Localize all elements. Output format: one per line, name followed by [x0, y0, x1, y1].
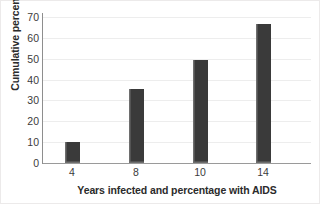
y-tick-label: 30: [13, 94, 39, 106]
x-tick-label: 10: [180, 166, 220, 178]
gridline: [43, 59, 311, 60]
gridline: [43, 38, 311, 39]
x-tick-label: 8: [116, 166, 156, 178]
gridline: [43, 17, 311, 18]
y-tick-label: 10: [13, 136, 39, 148]
y-tick-label: 40: [13, 74, 39, 86]
gridline: [43, 121, 311, 122]
bar-chart-figure: Cumulative percentage 010203040506070 48…: [0, 0, 320, 204]
y-tick-label: 70: [13, 11, 39, 23]
y-tick-label: 20: [13, 115, 39, 127]
x-axis-title: Years infected and percentage with AIDS: [43, 184, 311, 196]
y-tick-label: 0: [13, 157, 39, 169]
x-tick-label: 14: [243, 166, 283, 178]
x-tick-label: 4: [52, 166, 92, 178]
plot-area: [43, 17, 311, 163]
gridline: [43, 100, 311, 101]
bar: [193, 60, 208, 163]
bar: [256, 24, 271, 163]
y-axis-tick-labels: 010203040506070: [8, 17, 39, 163]
gridline: [43, 142, 311, 143]
bar: [129, 89, 144, 163]
bar: [65, 142, 80, 163]
y-tick-label: 50: [13, 53, 39, 65]
gridline: [43, 80, 311, 81]
gridline: [43, 163, 311, 164]
y-tick-label: 60: [13, 32, 39, 44]
x-axis-tick-labels: 481014: [43, 166, 311, 182]
